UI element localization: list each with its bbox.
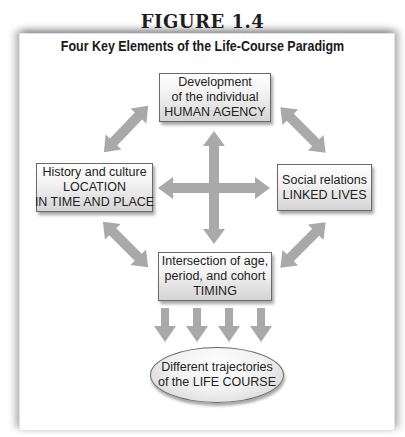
- double-arrow-icon-bottom-right: [273, 215, 334, 276]
- node-line: IN TIME AND PLACE: [35, 195, 154, 210]
- double-arrow-icon-top-left: [96, 98, 156, 159]
- node-line: Intersection of age,: [162, 254, 268, 269]
- down-arrow-icon-3: [218, 308, 240, 342]
- down-arrow-icon-2: [186, 308, 208, 342]
- node-linked-lives: Social relations LINKED LIVES: [277, 164, 372, 211]
- node-line: LOCATION: [63, 180, 126, 195]
- node-human-agency: Development of the individual HUMAN AGEN…: [159, 73, 271, 122]
- node-line: Different trajectories: [161, 360, 273, 375]
- node-line: of the individual: [172, 90, 259, 105]
- figure-title: Four Key Elements of the Life-Course Par…: [28, 38, 376, 54]
- node-line: period, and cohort: [165, 269, 266, 284]
- figure-label: FIGURE 1.4: [0, 11, 405, 32]
- node-timing: Intersection of age, period, and cohort …: [158, 252, 272, 301]
- down-arrow-icon-1: [154, 308, 176, 342]
- node-line: HUMAN AGENCY: [164, 105, 265, 120]
- node-life-course-outcome: Different trajectories of the LIFE COURS…: [150, 347, 284, 403]
- double-arrow-icon-bottom-left: [95, 214, 156, 275]
- cross-arrow-icon: [158, 131, 270, 244]
- node-line: Social relations: [282, 173, 367, 188]
- double-arrow-icon-top-right: [273, 100, 334, 161]
- node-location-time-place: History and culture LOCATION IN TIME AND…: [36, 163, 153, 212]
- node-line: of the LIFE COURSE: [158, 375, 276, 390]
- node-line: LINKED LIVES: [282, 188, 366, 203]
- node-line: Development: [178, 75, 252, 90]
- node-line: TIMING: [193, 284, 237, 299]
- down-arrow-icon-4: [250, 308, 272, 342]
- node-line: History and culture: [42, 165, 146, 180]
